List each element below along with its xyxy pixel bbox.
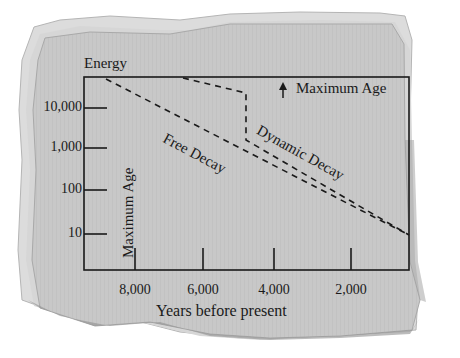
y-ticks: [84, 108, 107, 234]
free-decay-line: [106, 79, 409, 235]
vertical-max-age-label: Maximum Age: [120, 168, 137, 258]
max-age-legend-label: Maximum Age: [296, 80, 386, 97]
x-tick-label-6000: 6,000: [173, 282, 233, 298]
y-axis-title: Energy: [84, 55, 127, 72]
y-tick-label-1000: 1,000: [12, 139, 82, 155]
y-tick-label-10000: 10,000: [12, 99, 82, 115]
y-tick-label-10: 10: [12, 225, 82, 241]
x-tick-label-8000: 8,000: [105, 282, 165, 298]
chart-stone-tablet: Energy 10,000 1,000 100 10 8,000 6,000 4…: [0, 0, 460, 358]
y-tick-label-100: 100: [12, 181, 82, 197]
x-tick-label-4000: 4,000: [244, 282, 304, 298]
x-ticks: [135, 248, 351, 270]
x-tick-label-2000: 2,000: [321, 282, 381, 298]
up-arrow-icon: [279, 82, 287, 98]
x-axis-title: Years before present: [156, 302, 287, 320]
